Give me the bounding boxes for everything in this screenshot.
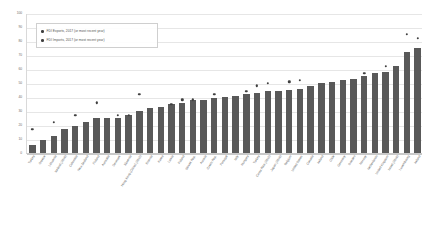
- x-tick-label: United States: [291, 155, 304, 172]
- scatter-point: [267, 82, 269, 84]
- legend-marker-icon: [41, 39, 44, 42]
- x-tick-label: Slovak Rep.: [185, 155, 197, 171]
- y-tick-label: 60: [2, 68, 22, 71]
- y-tick-label: 80: [2, 40, 22, 43]
- x-tick-label: Canada: [306, 155, 315, 166]
- fdi-trade-chart: 1009080706050403020100 FDI Exports, 2017…: [0, 0, 426, 230]
- y-tick-label: 100: [2, 12, 22, 15]
- scatter-point: [138, 93, 140, 95]
- x-tick-label: Italy: [234, 155, 240, 162]
- y-tick-label: 30: [2, 110, 22, 113]
- scatter-point: [213, 93, 215, 95]
- scatter-point: [31, 128, 33, 130]
- y-tick-label: 20: [2, 124, 22, 127]
- x-tick-label: Austria: [200, 155, 208, 165]
- scatter-point: [256, 85, 258, 87]
- scatter-point: [74, 114, 76, 116]
- legend-marker-icon: [41, 30, 44, 33]
- x-tick-label: Japan (2016): [270, 155, 283, 172]
- scatter-point: [117, 114, 119, 116]
- y-tick-label: 40: [2, 96, 22, 99]
- y-tick-label: 10: [2, 138, 22, 141]
- scatter-point: [363, 72, 365, 74]
- scatter-point: [95, 101, 97, 103]
- x-tick-label: Norway: [360, 155, 368, 166]
- x-tick-label: Latvia: [168, 155, 175, 164]
- x-tick-label: Turkey: [253, 155, 261, 165]
- x-tick-label: Australia: [102, 155, 111, 167]
- x-tick-label: Portugal: [220, 155, 229, 167]
- x-tick-label: Poland: [178, 155, 186, 165]
- x-tick-label: Belgium: [284, 155, 293, 166]
- x-tick-label: New Zealand: [77, 155, 90, 172]
- x-tick-label: Greece: [39, 155, 47, 165]
- scatter-point: [53, 121, 55, 123]
- y-tick-label: 70: [2, 54, 22, 57]
- legend-label-exports: FDI Exports, 2017 (or most recent year): [47, 30, 105, 34]
- legend-label-imports: FDI Imports, 2017 (or most recent year): [47, 39, 105, 43]
- scatter-point: [170, 103, 172, 105]
- x-tick-label: Luxembourg: [399, 155, 411, 171]
- scatter-point: [127, 114, 129, 116]
- scatter-point: [416, 37, 418, 39]
- legend: FDI Exports, 2017 (or most recent year) …: [36, 23, 158, 48]
- y-axis: 1009080706050403020100: [0, 14, 24, 154]
- scatter-point: [384, 65, 386, 67]
- legend-item-imports: FDI Imports, 2017 (or most recent year): [41, 36, 153, 45]
- x-tick-label: Finland: [92, 155, 100, 165]
- x-tick-label: Denmark: [112, 155, 122, 167]
- scatter-point: [299, 79, 301, 81]
- x-tick-label: Hungary: [241, 155, 250, 167]
- x-tick-label: Ireland: [317, 155, 325, 165]
- x-tick-label: Germany: [337, 155, 347, 168]
- x-tick-label: Czech Rep.: [207, 155, 218, 171]
- y-tick-label: 50: [2, 82, 22, 85]
- scatter-point: [181, 99, 183, 101]
- scatter-point: [192, 99, 194, 101]
- y-tick-label: 0: [2, 152, 22, 155]
- legend-item-exports: FDI Exports, 2017 (or most recent year): [41, 27, 153, 36]
- scatter-point: [406, 33, 408, 35]
- scatter-point: [288, 80, 290, 82]
- x-tick-label: Chile: [329, 155, 336, 163]
- x-tick-label: Sweden: [348, 155, 357, 166]
- x-tick-label: Ireland: [414, 155, 422, 165]
- x-tick-label: Turkey: [28, 155, 36, 165]
- y-tick-label: 90: [2, 26, 22, 29]
- x-axis-labels: TurkeyGreeceLithuaniaIceland (2016)Colom…: [26, 155, 422, 227]
- x-tick-label: Korea: [157, 155, 164, 164]
- scatter-point: [245, 90, 247, 92]
- x-tick-label: Estonia: [146, 155, 154, 166]
